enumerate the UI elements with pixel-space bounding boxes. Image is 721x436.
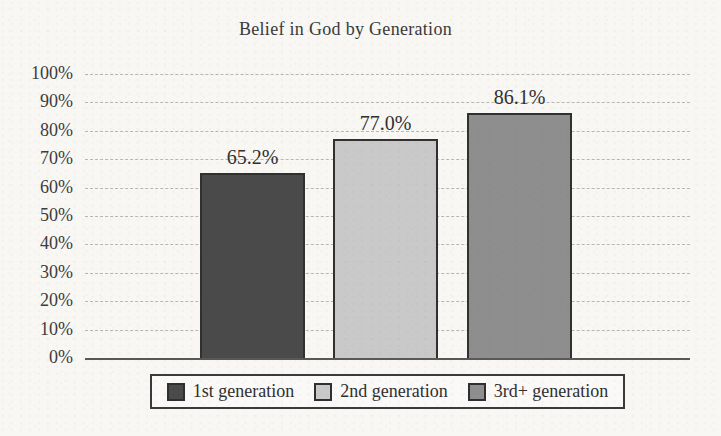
legend-item-3rd-generation: 3rd+ generation bbox=[468, 381, 609, 402]
legend-label-3rd-generation: 3rd+ generation bbox=[494, 381, 609, 402]
legend-swatch-3rd-generation bbox=[468, 383, 486, 401]
y-tick-label-40: 40% bbox=[40, 233, 73, 254]
legend-swatch-1st-generation bbox=[167, 383, 185, 401]
y-tick-label-80: 80% bbox=[40, 120, 73, 141]
legend-item-2nd-generation: 2nd generation bbox=[314, 381, 447, 402]
legend-swatch-2nd-generation bbox=[314, 383, 332, 401]
y-tick-label-30: 30% bbox=[40, 262, 73, 283]
bar-2nd-generation bbox=[333, 139, 438, 358]
y-tick-label-50: 50% bbox=[40, 205, 73, 226]
y-tick-label-20: 20% bbox=[40, 290, 73, 311]
legend-label-2nd-generation: 2nd generation bbox=[340, 381, 447, 402]
y-tick-label-60: 60% bbox=[40, 177, 73, 198]
bar-1st-generation bbox=[200, 173, 305, 358]
y-tick-label-100: 100% bbox=[31, 63, 73, 84]
gridline-100 bbox=[85, 74, 690, 75]
legend: 1st generation2nd generation3rd+ generat… bbox=[150, 374, 626, 409]
y-tick-label-90: 90% bbox=[40, 91, 73, 112]
legend-item-1st-generation: 1st generation bbox=[167, 381, 294, 402]
y-tick-label-10: 10% bbox=[40, 319, 73, 340]
bar-value-label-2nd-generation: 77.0% bbox=[360, 112, 412, 135]
y-tick-label-70: 70% bbox=[40, 148, 73, 169]
bar-value-label-3rd-generation: 86.1% bbox=[494, 86, 546, 109]
plot-area: 100%90%80%70%60%50%40%30%20%10%0%65.2%77… bbox=[85, 74, 690, 360]
gridline-90 bbox=[85, 102, 690, 103]
chart-title: Belief in God by Generation bbox=[0, 19, 691, 40]
bar-3rd-generation bbox=[467, 113, 572, 358]
legend-label-1st-generation: 1st generation bbox=[193, 381, 294, 402]
scanned-page: Belief in God by Generation 100%90%80%70… bbox=[0, 0, 721, 436]
legend-row: 1st generation2nd generation3rd+ generat… bbox=[85, 374, 690, 409]
y-tick-label-0: 0% bbox=[49, 347, 73, 368]
bar-value-label-1st-generation: 65.2% bbox=[227, 146, 279, 169]
